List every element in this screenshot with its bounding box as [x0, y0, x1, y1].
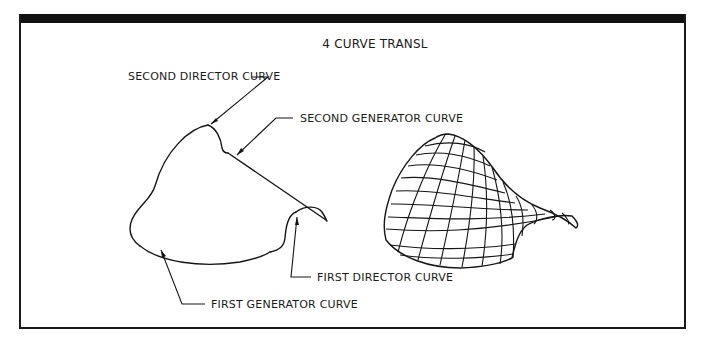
- label-second-generator: SECOND GENERATOR CURVE: [237, 112, 463, 155]
- mesh-line: [416, 153, 490, 166]
- mesh-line: [440, 140, 465, 265]
- first-generator-curve: [140, 246, 270, 264]
- meshed-surface-drawing: [384, 134, 577, 268]
- second-generator-leader: [237, 118, 293, 155]
- first-director-label: FIRST DIRECTOR CURVE: [317, 271, 453, 284]
- mesh-line: [550, 210, 555, 220]
- mesh-line: [492, 167, 502, 264]
- figure-title: 4 CURVE TRANSL: [322, 37, 427, 51]
- arrowhead-icon: [295, 217, 299, 225]
- second-generator-label: SECOND GENERATOR CURVE: [300, 112, 463, 125]
- first-generator-leader: [161, 250, 205, 304]
- first-director-curve: [296, 207, 327, 221]
- front-edge-curve: [270, 212, 296, 252]
- second-director-curve: [130, 125, 208, 246]
- boundary-curves-drawing: [130, 125, 327, 264]
- first-generator-label: FIRST GENERATOR CURVE: [211, 298, 358, 311]
- mesh-line: [390, 244, 515, 249]
- second-generator-curve: [228, 153, 326, 220]
- label-first-director: FIRST DIRECTOR CURVE: [291, 217, 453, 284]
- first-director-leader: [291, 217, 311, 277]
- diagram-canvas: 4 CURVE TRANSL: [0, 0, 706, 340]
- mesh-line: [388, 214, 545, 219]
- mesh-line: [400, 254, 513, 258]
- mesh-line: [418, 136, 455, 260]
- second-director-leader: [211, 77, 268, 124]
- label-second-director: SECOND DIRECTOR CURVE: [128, 70, 280, 124]
- peak-bump: [208, 125, 228, 153]
- mesh-line: [425, 143, 485, 152]
- mesh-line: [482, 156, 487, 266]
